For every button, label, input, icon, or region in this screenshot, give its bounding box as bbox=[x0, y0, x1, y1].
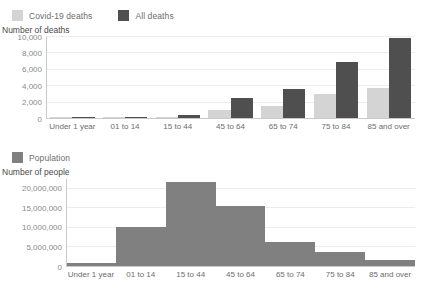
x-axis-tick-label: 45 to 64 bbox=[204, 122, 257, 131]
y-axis-tick-label: 10,000,000 bbox=[22, 223, 66, 232]
deaths-plot-area: 02,0004,0006,0008,00010,000 bbox=[46, 37, 415, 119]
y-axis-tick-label: 20,000,000 bbox=[22, 184, 66, 193]
y-axis-tick-label: 2,000 bbox=[22, 98, 46, 107]
bar bbox=[116, 227, 166, 266]
deaths-chart-panel: Covid-19 deaths All deaths Number of dea… bbox=[0, 0, 423, 148]
y-axis-tick-label: 4,000 bbox=[22, 81, 46, 90]
x-axis-tick-label: 15 to 44 bbox=[166, 270, 216, 279]
y-axis-tick-label: 0 bbox=[38, 114, 46, 123]
y-axis-tick-label: 15,000,000 bbox=[22, 203, 66, 212]
bar-group bbox=[257, 37, 310, 118]
x-axis-tick-label: 65 to 74 bbox=[257, 122, 310, 131]
x-axis-tick-label: 65 to 74 bbox=[265, 270, 315, 279]
x-axis-tick-label: 15 to 44 bbox=[151, 122, 204, 131]
bar bbox=[231, 98, 253, 118]
bar-group bbox=[99, 37, 152, 118]
population-bars bbox=[66, 179, 415, 266]
deaths-y-axis-title: Number of deaths bbox=[0, 25, 423, 35]
legend-label-all-deaths: All deaths bbox=[135, 11, 173, 21]
legend-swatch-all-deaths bbox=[118, 10, 129, 21]
deaths-bars bbox=[46, 37, 415, 118]
bar-group bbox=[116, 179, 166, 266]
bar bbox=[367, 88, 389, 118]
bar-group bbox=[365, 179, 415, 266]
legend-label-population: Population bbox=[29, 153, 70, 163]
bar-group bbox=[66, 179, 116, 266]
legend-swatch-covid-19-deaths bbox=[12, 10, 23, 21]
deaths-legend: Covid-19 deaths All deaths bbox=[0, 10, 423, 21]
bar bbox=[166, 182, 216, 266]
legend-item-covid-19-deaths: Covid-19 deaths bbox=[12, 10, 92, 21]
population-legend: Population bbox=[0, 152, 423, 163]
bar bbox=[283, 89, 305, 118]
bar bbox=[315, 252, 365, 266]
legend-label-covid-19-deaths: Covid-19 deaths bbox=[29, 11, 92, 21]
bar-group bbox=[166, 179, 216, 266]
x-axis-tick-label: 01 to 14 bbox=[99, 122, 152, 131]
bar-group bbox=[310, 37, 363, 118]
bar bbox=[216, 206, 266, 266]
population-x-axis-line bbox=[66, 266, 415, 267]
population-y-axis-title: Number of people bbox=[0, 167, 423, 177]
population-x-axis-labels: Under 1 year01 to 1415 to 4445 to 6465 t… bbox=[66, 270, 415, 279]
y-axis-tick-label: 8,000 bbox=[22, 48, 46, 57]
bar-group bbox=[46, 37, 99, 118]
deaths-y-axis-line bbox=[46, 37, 47, 119]
population-chart-panel: Population Number of people 05,000,00010… bbox=[0, 150, 423, 302]
x-axis-tick-label: 75 to 84 bbox=[310, 122, 363, 131]
x-axis-tick-label: 85 and over bbox=[365, 270, 415, 279]
deaths-x-axis-labels: Under 1 year01 to 1415 to 4445 to 6465 t… bbox=[46, 122, 415, 131]
bar bbox=[336, 62, 358, 118]
x-axis-tick-label: 75 to 84 bbox=[315, 270, 365, 279]
x-axis-tick-label: Under 1 year bbox=[66, 270, 116, 279]
bar-group bbox=[362, 37, 415, 118]
x-axis-tick-label: 01 to 14 bbox=[116, 270, 166, 279]
bar bbox=[314, 94, 336, 118]
bar-group bbox=[216, 179, 266, 266]
bar-group bbox=[204, 37, 257, 118]
y-axis-tick-label: 5,000,000 bbox=[26, 242, 66, 251]
bar bbox=[261, 106, 283, 118]
bar-group bbox=[151, 37, 204, 118]
legend-swatch-population bbox=[12, 152, 23, 163]
bar-group bbox=[265, 179, 315, 266]
legend-item-population: Population bbox=[12, 152, 70, 163]
x-axis-tick-label: 85 and over bbox=[362, 122, 415, 131]
bar-group bbox=[315, 179, 365, 266]
x-axis-tick-label: 45 to 64 bbox=[216, 270, 266, 279]
deaths-x-axis-line bbox=[46, 118, 415, 119]
population-plot-area: 05,000,00010,000,00015,000,00020,000,000 bbox=[66, 179, 415, 267]
bar bbox=[208, 110, 230, 118]
bar bbox=[389, 38, 411, 118]
y-axis-tick-label: 0 bbox=[58, 262, 66, 271]
legend-item-all-deaths: All deaths bbox=[118, 10, 173, 21]
bar bbox=[265, 242, 315, 266]
y-axis-tick-label: 6,000 bbox=[22, 65, 46, 74]
population-y-axis-line bbox=[66, 179, 67, 267]
x-axis-tick-label: Under 1 year bbox=[46, 122, 99, 131]
